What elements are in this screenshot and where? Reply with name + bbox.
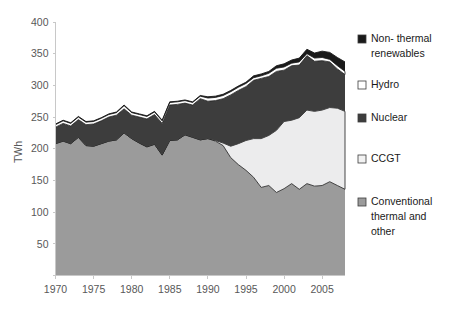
y-axis-title: TWh (12, 141, 24, 163)
legend-swatch-1 (358, 81, 366, 89)
x-tick-label: 1980 (120, 283, 144, 295)
y-tick-label: 50 (37, 238, 49, 250)
legend-swatch-0 (358, 35, 366, 43)
y-tick-label: 300 (31, 79, 49, 91)
legend-label-2: Nuclear (371, 111, 408, 123)
y-tick-label: 200 (31, 142, 49, 154)
x-tick-label: 1990 (196, 283, 220, 295)
stacked-area-chart: 50100150200250300350400 1970197519801985… (0, 0, 467, 317)
x-tick-label: 1985 (158, 283, 182, 295)
x-tick-label: 1975 (82, 283, 106, 295)
legend-label-3: CCGT (371, 152, 401, 164)
legend-label-4: thermal and (371, 210, 427, 222)
y-tick-label: 350 (31, 47, 49, 59)
legend-label-4: other (371, 225, 395, 237)
legend-label-4: Conventional (371, 195, 432, 207)
y-tick-label: 100 (31, 206, 49, 218)
legend-swatch-4 (358, 198, 366, 206)
legend-swatch-2 (358, 114, 366, 122)
x-tick-label: 1995 (234, 283, 258, 295)
y-tick-label: 150 (31, 174, 49, 186)
legend-label-0: renewables (371, 47, 425, 59)
y-tick-label: 400 (31, 16, 49, 28)
legend-swatch-3 (358, 155, 366, 163)
y-tick-label: 250 (31, 111, 49, 123)
x-tick-label: 2000 (272, 283, 296, 295)
x-tick-label: 1970 (44, 283, 68, 295)
x-tick-label: 2005 (310, 283, 334, 295)
legend-label-1: Hydro (371, 78, 399, 90)
legend-label-0: Non- thermal (371, 32, 432, 44)
